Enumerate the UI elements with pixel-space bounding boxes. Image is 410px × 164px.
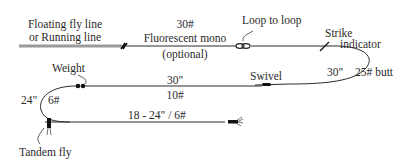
butt-length-label: 30"	[327, 66, 343, 79]
weight-label: Weight	[52, 62, 85, 75]
fly-line-label: Floating fly line or Running line	[24, 18, 106, 44]
tandem-fly-icon	[47, 118, 51, 135]
tandem-fly-label: Tandem fly	[19, 146, 72, 159]
mono-name-label: Fluorescent mono	[135, 32, 235, 45]
dropper-length-label: 24"	[21, 94, 37, 107]
fly-line-label-line1: Floating fly line	[24, 18, 106, 31]
loop-to-loop-icon	[236, 44, 250, 49]
butt-weight-label: 25# butt	[355, 66, 393, 79]
weight-icon	[76, 84, 86, 89]
loop-to-loop-label: Loop to loop	[242, 14, 301, 27]
strike-label-line2: indicator	[340, 38, 381, 51]
dropper-weight-label: 6#	[48, 94, 60, 107]
loop-pointer	[243, 31, 253, 41]
swivel-label: Swivel	[250, 70, 282, 83]
mid-length-label: 30"	[160, 74, 190, 87]
mono-weight-label: 30#	[155, 18, 215, 31]
weight-pointer	[78, 75, 86, 84]
mid-weight-label: 10#	[160, 89, 190, 102]
mono-optional-label: (optional)	[150, 48, 220, 61]
end-fly-icon	[228, 117, 243, 126]
fly-line-label-line2: or Running line	[24, 31, 106, 44]
tippet-label: 18 - 24" / 6#	[128, 109, 186, 122]
tandem-fly-pointer	[38, 128, 44, 144]
